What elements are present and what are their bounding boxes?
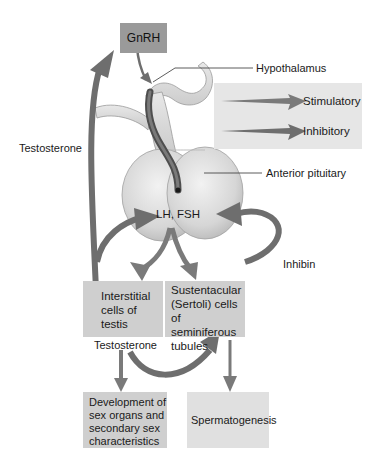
interstitial-line-2: cells of bbox=[101, 303, 163, 317]
sertoli-line-2: (Sertoli) cells bbox=[171, 297, 245, 311]
lh-fsh-label: LH, FSH bbox=[156, 208, 200, 221]
testosterone-output-label: Testosterone bbox=[94, 339, 157, 352]
testosterone-feedback-label: Testosterone bbox=[19, 142, 82, 155]
hypothalamus-label: Hypothalamus bbox=[256, 62, 326, 75]
spermatogenesis-label: Spermatogenesis bbox=[191, 414, 277, 426]
interstitial-line-3: testis bbox=[101, 317, 163, 331]
gnrh-box: GnRH bbox=[120, 23, 167, 53]
legend-box bbox=[214, 83, 362, 149]
interstitial-line-1: Interstitial bbox=[101, 289, 163, 303]
interstitial-cells-box: Interstitial cells of testis bbox=[83, 281, 163, 337]
development-line-1: Development of bbox=[89, 396, 167, 409]
spermatogenesis-box: Spermatogenesis bbox=[187, 392, 269, 448]
development-line-2: sex organs and bbox=[89, 409, 167, 422]
legend-stimulatory-label: Stimulatory bbox=[303, 95, 361, 108]
hypothalamus-leader bbox=[153, 68, 175, 82]
inhibin-label: Inhibin bbox=[283, 258, 315, 271]
sertoli-cells-box: Sustentacular (Sertoli) cells of seminif… bbox=[165, 281, 245, 337]
sertoli-line-4: tubules bbox=[171, 339, 245, 353]
legend-inhibitory-label: Inhibitory bbox=[303, 125, 350, 138]
sertoli-line-3: of seminiferous bbox=[171, 311, 245, 339]
development-line-3: secondary sex bbox=[89, 422, 167, 435]
development-line-4: characteristics bbox=[89, 435, 167, 448]
anterior-pituitary-label: Anterior pituitary bbox=[266, 167, 346, 180]
hypothalamus-tissue bbox=[95, 62, 212, 160]
development-box: Development of sex organs and secondary … bbox=[83, 392, 167, 448]
sertoli-line-1: Sustentacular bbox=[171, 283, 245, 297]
gnrh-label: GnRH bbox=[127, 31, 160, 45]
